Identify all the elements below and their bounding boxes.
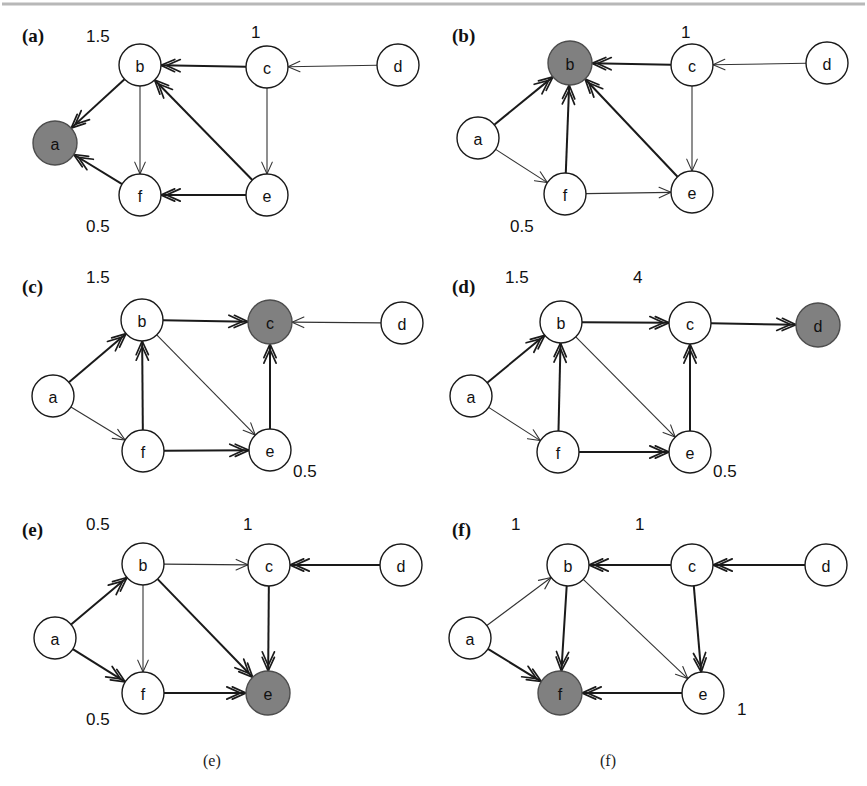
node-label: d [394,58,403,75]
graph-figure-panels: abcdef(a)1.510.5abcdef(b)10.5abcdef(c)1.… [0,0,867,786]
node-label: e [264,686,273,703]
node-label: c [265,558,273,575]
edge-weight-label: 1 [635,515,644,534]
graph-node-b[interactable]: b [122,543,164,585]
graph-node-e[interactable]: e [246,671,290,715]
graph-node-e[interactable]: e [669,431,711,473]
node-label: b [566,56,575,73]
node-label: a [51,631,60,648]
graph-node-b[interactable]: b [540,301,582,343]
graph-node-a[interactable]: a [450,375,492,417]
edge-weight-label: 1.5 [86,27,110,46]
graph-node-a[interactable]: a [32,375,74,417]
graph-node-c[interactable]: c [669,302,711,344]
edge-weight-label: 0.5 [293,462,317,481]
node-label: d [398,316,407,333]
node-label: d [822,558,831,575]
graph-node-d[interactable]: d [380,544,422,586]
graph-node-b[interactable]: b [121,299,163,341]
panel-tag-label: (d) [452,276,475,298]
node-label: b [139,557,148,574]
graph-node-f[interactable]: f [122,672,164,714]
node-label: e [686,445,695,462]
node-label: e [266,443,275,460]
graph-edge-d-to-c [292,322,381,323]
node-label: f [141,444,146,461]
graph-node-d[interactable]: d [806,42,848,84]
node-label: f [563,187,568,204]
edge-weight-label: 0.5 [510,217,534,236]
graph-node-d[interactable]: d [377,44,419,86]
graph-node-b[interactable]: b [119,44,161,86]
node-label: a [466,631,475,648]
node-label: c [263,60,271,77]
graph-node-f[interactable]: f [122,430,164,472]
graph-node-a[interactable]: a [34,617,76,659]
graph-node-c[interactable]: c [671,544,713,586]
graph-node-e[interactable]: e [246,174,288,216]
graph-edge-b-to-c [582,322,669,323]
graph-node-d[interactable]: d [796,303,840,347]
graph-node-c[interactable]: c [248,544,290,586]
edge-weight-label: 1.5 [505,268,529,287]
panel-tag-label: (e) [22,519,43,541]
graph-node-e[interactable]: e [682,672,724,714]
graph-node-e[interactable]: e [671,171,713,213]
graph-node-f[interactable]: f [544,173,586,215]
graph-node-b[interactable]: b [548,41,592,85]
graph-node-d[interactable]: d [805,544,847,586]
graph-node-a[interactable]: a [33,121,77,165]
node-label: a [51,136,60,153]
node-label: e [688,185,697,202]
node-label: b [138,313,147,330]
graph-node-a[interactable]: a [449,617,491,659]
graph-edge-c-to-d [711,323,796,324]
node-label: d [823,56,832,73]
edge-weight-label: 4 [633,268,642,287]
figure-background [0,0,867,786]
graph-node-c[interactable]: c [246,46,288,88]
node-label: f [141,686,146,703]
edge-weight-label: 0.5 [86,710,110,729]
edge-weight-label: 1 [511,515,520,534]
panel-caption-label: (f) [600,752,616,770]
panel-tag-label: (a) [22,25,44,47]
node-label: f [138,188,143,205]
node-label: c [686,316,694,333]
graph-node-f[interactable]: f [119,174,161,216]
graph-node-a[interactable]: a [457,117,499,159]
graph-node-c[interactable]: c [248,300,292,344]
node-label: a [49,389,58,406]
node-label: a [474,131,483,148]
node-label: c [266,315,274,332]
node-label: d [814,318,823,335]
panel-tag-label: (b) [452,25,475,47]
graph-edge-f-to-e [164,450,249,451]
node-label: b [557,315,566,332]
graph-edge-c-to-b [161,65,246,66]
edge-weight-label: 1 [737,700,746,719]
graph-edge-c-to-e [268,586,269,671]
graph-node-f[interactable]: f [538,671,582,715]
panel-tag-label: (f) [452,519,471,541]
graph-node-b[interactable]: b [547,544,589,586]
edge-weight-label: 0.5 [713,462,737,481]
node-label: c [688,558,696,575]
node-label: e [263,188,272,205]
node-label: f [556,445,561,462]
panel-caption-label: (e) [203,752,221,770]
graph-edge-b-to-c [163,320,248,321]
edge-weight-label: 0.5 [86,217,110,236]
graph-node-c[interactable]: c [671,44,713,86]
graph-node-d[interactable]: d [381,302,423,344]
edge-weight-label: 1 [243,515,252,534]
graph-node-e[interactable]: e [249,429,291,471]
node-label: f [558,686,563,703]
graph-edge-c-to-b [592,63,671,64]
panel-tag-label: (c) [22,276,43,298]
edge-weight-label: 1.5 [86,268,110,287]
edge-weight-label: 1 [681,23,690,42]
graph-node-f[interactable]: f [537,431,579,473]
edge-weight-label: 0.5 [86,515,110,534]
node-label: c [688,58,696,75]
